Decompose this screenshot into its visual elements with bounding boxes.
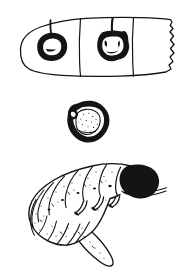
illustration-plate: Insect life stages line illustration seg…: [0, 0, 194, 273]
illustration-canvas: [0, 0, 194, 273]
ring-marking-right-stalk: [112, 18, 113, 32]
ring-marking-left-stalk: [50, 20, 51, 33]
